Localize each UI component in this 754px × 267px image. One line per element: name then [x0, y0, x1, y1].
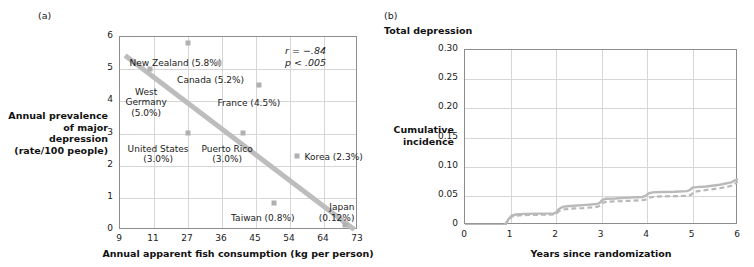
grid-line-horizontal — [120, 198, 356, 199]
panel-a: (a) New Zealand (5.8%)Canada (5.2%)WestG… — [0, 0, 378, 267]
data-point-marker[interactable] — [185, 130, 190, 135]
data-point-label-8-line-1: (0.12%) — [234, 213, 354, 224]
data-point-marker[interactable] — [342, 223, 347, 228]
x-tick-label: 1 — [490, 229, 530, 239]
data-point-label: Canada (5.2%) — [177, 75, 244, 86]
y-tick-label: 1 — [97, 191, 113, 201]
x-tick-label: 73 — [337, 233, 377, 243]
data-point-label-1-line-0: Canada (5.2%) — [177, 75, 244, 86]
data-point-label: France (4.5%) — [218, 98, 281, 109]
x-tick-label: 5 — [672, 229, 712, 239]
panel-b: (b) Total depression Cumulativeincidence… — [376, 0, 754, 267]
y-tick-label: 0.20 — [426, 101, 458, 111]
grid-line-vertical — [256, 37, 257, 228]
data-point-marker[interactable] — [216, 60, 221, 65]
y-tick-label: 3 — [97, 127, 113, 137]
incidence-curves — [465, 50, 738, 225]
correlation-annotation-line-0: r = −.84 — [258, 45, 353, 57]
y-tick-label: 0.10 — [426, 160, 458, 170]
y-tick-label: 4 — [97, 94, 113, 104]
panel-b-letter: (b) — [384, 10, 397, 21]
data-point-label-6-line-0: Korea (2.3%) — [304, 152, 362, 163]
data-point-label: Japan(0.12%) — [234, 202, 354, 223]
y-tick-label: 0.25 — [426, 72, 458, 82]
y-tick-label: 2 — [97, 159, 113, 169]
y-tick-label: 0.30 — [426, 43, 458, 53]
x-tick-label: 4 — [626, 229, 666, 239]
y-tick-label: 5 — [97, 62, 113, 72]
y-tick-label: 0 — [426, 218, 458, 228]
correlation-annotation-line-1: p < .005 — [258, 57, 353, 69]
y-axis-title-a-line-0: Annual prevalence — [8, 110, 108, 122]
y-axis-title-a-line-2: (rate/100 people) — [8, 145, 108, 157]
x-tick-label: 6 — [717, 229, 754, 239]
x-axis-title-b: Years since randomization — [476, 248, 726, 259]
data-point-label-0-line-0: New Zealand (5.8%) — [130, 58, 222, 69]
data-point-marker[interactable] — [185, 40, 190, 45]
data-point-label-8-line-0: Japan — [234, 202, 354, 213]
y-tick-label: 0 — [97, 223, 113, 233]
y-tick-label: 6 — [97, 30, 113, 40]
x-tick-label: 2 — [535, 229, 575, 239]
series-solid-curve — [465, 179, 738, 225]
panel-b-title: Total depression — [384, 25, 472, 36]
data-point-label-3-line-0: France (4.5%) — [218, 98, 281, 109]
series-dashed-curve — [465, 182, 738, 225]
y-tick-label: 0.05 — [426, 189, 458, 199]
incidence-plot-area — [464, 49, 737, 224]
data-point-marker[interactable] — [257, 83, 262, 88]
x-tick-label: 0 — [444, 229, 484, 239]
y-axis-title-a: Annual prevalenceof major depression(rat… — [8, 110, 108, 156]
data-point-label-5-line-0: Puerto Rico — [167, 144, 287, 155]
panel-a-letter: (a) — [38, 10, 51, 21]
data-point-label-5-line-1: (3.0%) — [167, 154, 287, 165]
data-point-marker[interactable] — [240, 130, 245, 135]
x-tick-label: 3 — [581, 229, 621, 239]
grid-line-horizontal — [120, 134, 356, 135]
correlation-annotation: r = −.84p < .005 — [258, 45, 353, 69]
y-axis-title-a-line-1: of major depression — [8, 122, 108, 145]
data-point-label: Korea (2.3%) — [304, 152, 362, 163]
x-axis-title-a: Annual apparent fish consumption (kg per… — [88, 248, 388, 259]
y-tick-label: 0.15 — [426, 131, 458, 141]
grid-line-horizontal — [120, 69, 356, 70]
data-point-marker[interactable] — [295, 154, 300, 159]
data-point-label: Puerto Rico(3.0%) — [167, 144, 287, 165]
data-point-label: New Zealand (5.8%) — [130, 58, 222, 69]
grid-line-horizontal — [120, 166, 356, 167]
data-point-marker[interactable] — [147, 66, 152, 71]
